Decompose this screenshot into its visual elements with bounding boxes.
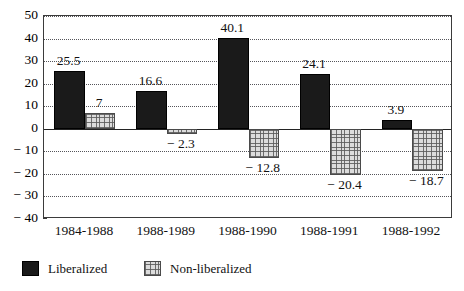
- x-tick-label-1988-1992: 1988-1992: [361, 224, 461, 238]
- value-label: − 2.3: [151, 137, 211, 151]
- y-tick-label: 30: [0, 53, 38, 67]
- bar-non-liberalized-1984-1988: [85, 113, 116, 129]
- y-tick-label: 20: [0, 76, 38, 90]
- y-tick-label: 50: [0, 8, 38, 22]
- legend-label: Non-liberalized: [170, 262, 252, 275]
- y-tick-mark: [43, 218, 47, 219]
- gridline: [44, 16, 451, 17]
- legend-label: Liberalized: [48, 262, 107, 275]
- value-label: 24.1: [284, 57, 344, 71]
- bar-non-liberalized-1988-1991: [330, 129, 361, 175]
- value-label: 16.6: [120, 74, 180, 88]
- y-tick-label: − 30: [0, 188, 38, 202]
- legend-swatch-icon: [22, 261, 39, 276]
- y-tick-label: 0: [0, 121, 38, 135]
- value-label: 25.5: [39, 54, 99, 68]
- value-label: − 18.7: [396, 174, 456, 188]
- bar-non-liberalized-1988-1990: [249, 129, 280, 158]
- zero-baseline: [44, 129, 451, 130]
- value-label: − 12.8: [233, 161, 293, 175]
- bar-non-liberalized-1988-1992: [412, 129, 443, 171]
- legend-item-non-liberalized: Non-liberalized: [144, 258, 252, 278]
- value-label: − 20.4: [315, 178, 375, 192]
- y-tick-label: − 40: [0, 211, 38, 225]
- bar-liberalized-1988-1990: [218, 38, 249, 128]
- legend-swatch-icon: [144, 261, 161, 276]
- bar-liberalized-1988-1989: [136, 91, 167, 128]
- bar-liberalized-1988-1991: [300, 74, 331, 128]
- value-label: 7: [69, 96, 129, 110]
- gridline: [44, 196, 451, 197]
- y-tick-label: − 20: [0, 166, 38, 180]
- value-label: 40.1: [202, 21, 262, 35]
- value-label: 3.9: [366, 103, 426, 117]
- bar-non-liberalized-1988-1989: [167, 129, 198, 134]
- y-tick-label: 40: [0, 31, 38, 45]
- gridline: [44, 151, 451, 152]
- legend-item-liberalized: Liberalized: [22, 258, 107, 278]
- bar-chart-figure: 50403020100− 10− 20− 30− 40 25.5716.6− 2…: [0, 0, 464, 291]
- bar-liberalized-1988-1992: [382, 120, 413, 129]
- y-tick-label: 10: [0, 98, 38, 112]
- y-tick-label: − 10: [0, 143, 38, 157]
